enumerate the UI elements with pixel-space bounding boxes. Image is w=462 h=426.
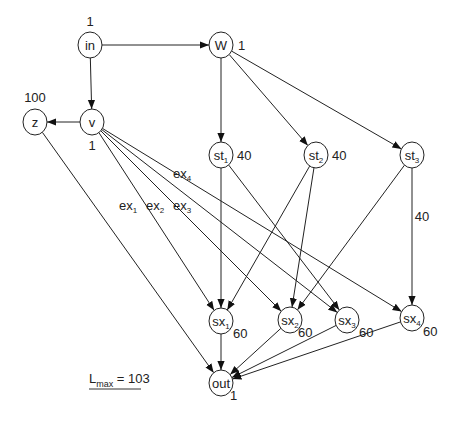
svg-text:Lmax = 103: Lmax = 103 [89,371,150,389]
node-weight: 1 [88,138,95,153]
node-label: z [32,115,39,130]
edge-sx3-to-out [232,325,336,377]
node-weight: 40 [237,148,251,163]
node-z: z100 [23,90,47,135]
edge-st1-to-sx3 [229,165,340,310]
node-label: v [89,115,96,130]
edge-v-to-sx1 [99,133,214,311]
edge-label: ex4 [173,166,192,183]
edge-label: 40 [415,209,429,224]
lmax-annotation: Lmax = 103 [89,371,150,389]
node-label: W [215,38,228,53]
node-label: in [85,38,95,53]
node-weight: 1 [230,388,237,403]
node-out: out1 [209,370,237,403]
node-st2: st240 [304,142,346,168]
dag-diagram: in1W1v1z100st140st240st3sx160sx260sx360s… [0,0,462,426]
edge-W-to-st3 [232,51,402,149]
lmax-sub: max [96,379,114,389]
node-v: v1 [80,109,104,153]
lmax-base: L [89,371,96,386]
edge-z-to-out [42,132,213,372]
edge-label: ex1 [119,198,138,215]
node-weight: 60 [298,325,312,340]
lmax-value: = 103 [113,371,150,386]
node-weight: 60 [359,325,373,340]
edge-label: ex2 [146,198,165,215]
node-label: out [212,376,230,391]
edge-sx4-to-out [232,322,400,379]
node-weight: 100 [24,90,46,105]
node-in: in1 [78,14,102,58]
node-sx3: sx360 [335,307,373,340]
node-sx4: sx460 [400,305,437,339]
edge-v-to-sx4 [102,128,401,311]
node-weight: 60 [423,324,437,339]
edge-in-to-v [90,58,91,109]
node-weight: 40 [332,148,346,163]
edge-label: ex3 [173,198,192,215]
edge-W-to-st2 [229,54,308,145]
edge-st2-to-sx1 [227,166,309,310]
node-sx1: sx160 [209,308,247,341]
nodes-layer: in1W1v1z100st140st240st3sx160sx260sx360s… [23,14,437,403]
node-st1: st140 [209,142,251,168]
node-weight: 1 [86,14,93,29]
node-sx2: sx260 [278,307,312,340]
node-weight: 60 [233,326,247,341]
node-W: W1 [209,32,245,58]
node-st3: st3 [400,142,424,168]
edge-st3-to-sx2 [298,165,405,310]
node-weight: 1 [238,38,245,53]
